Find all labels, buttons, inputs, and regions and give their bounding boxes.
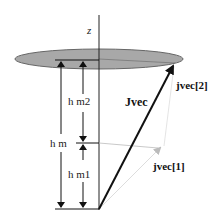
Jvec-label: Jvec	[125, 95, 148, 109]
jvec1-vector	[99, 148, 160, 209]
hm-label: h m	[50, 137, 67, 149]
Jvec-vector	[99, 66, 173, 209]
angular-momentum-diagram: z h m2 h m h m1 Jvec jvec[2] jvec[1]	[0, 0, 224, 219]
hm1-label: h m1	[68, 168, 90, 180]
hm2-label: h m2	[68, 95, 90, 107]
jvec1-label: jvec[1]	[152, 160, 185, 172]
jvec2-label: jvec[2]	[175, 79, 208, 91]
jvec-projection-line	[164, 66, 174, 146]
z-axis-label: z	[86, 24, 92, 36]
mid-tick-extension	[99, 143, 158, 148]
